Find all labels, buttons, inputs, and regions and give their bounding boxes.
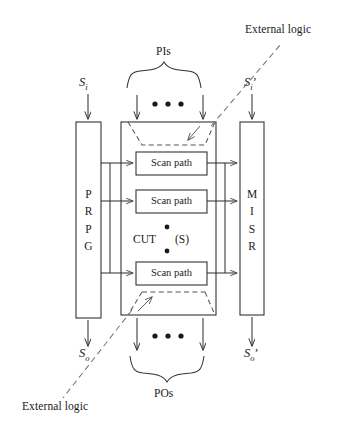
scan-out-prime-label: So’: [244, 347, 259, 362]
misr-block-label: M I S R: [240, 186, 264, 256]
ellipsis-top-dot-1: [152, 101, 157, 106]
ellipsis-top-dot-2: [165, 101, 170, 106]
external-logic-arrow-bottom: [138, 297, 152, 311]
external-logic-label-top: External logic: [245, 24, 311, 36]
scan-in-prime-mark: ’: [253, 75, 257, 89]
scan-in-sub: i: [85, 82, 87, 92]
cut-vertical-dot-top: [165, 225, 170, 230]
ellipsis-bottom-dot-3: [178, 333, 183, 338]
ellipsis-dots: [152, 101, 183, 338]
cut-suffix-label: (S): [175, 234, 189, 246]
diagram-vector-layer: [0, 0, 337, 437]
ellipsis-top-dot-3: [178, 101, 183, 106]
prpg-letter-3: G: [76, 238, 101, 255]
pos-label: POs: [154, 388, 173, 400]
external-logic-label-bottom: External logic: [22, 401, 88, 413]
prpg-block-label: P R P G: [76, 186, 101, 256]
cut-vertical-dot-bottom: [165, 249, 170, 254]
scan-path-label-3: Scan path: [136, 268, 207, 279]
prpg-letter-0: P: [76, 186, 101, 203]
braces: [127, 62, 204, 382]
external-logic-leader-bottom: [63, 310, 132, 398]
misr-letter-0: M: [240, 186, 264, 203]
scan-out-prime-mark: ’: [255, 346, 259, 360]
ellipsis-bottom-dot-2: [165, 333, 170, 338]
scan-path-label-2: Scan path: [136, 196, 207, 207]
misr-letter-1: I: [240, 203, 264, 220]
cut-vertical-dots: [165, 225, 170, 254]
external-logic-trapezoid-bottom: [128, 292, 215, 315]
po-arrows: [137, 318, 203, 350]
cut-box-rect: [121, 122, 216, 315]
scan-path-label-1: Scan path: [136, 158, 207, 169]
prpg-letter-1: R: [76, 203, 101, 220]
pis-brace: [127, 62, 201, 88]
scan-out-label: So: [79, 347, 90, 362]
pi-arrows: [137, 95, 203, 119]
ellipsis-bottom-dot-1: [152, 333, 157, 338]
cut-text: CUT: [133, 233, 156, 245]
scan-path-rects: [136, 152, 207, 285]
misr-letter-2: S: [240, 221, 264, 238]
scan-in-label: Si: [79, 76, 88, 91]
prpg-letter-2: P: [76, 221, 101, 238]
pos-brace: [130, 356, 204, 382]
cut-block-label: CUT: [133, 234, 156, 246]
misr-letter-3: R: [240, 238, 264, 255]
external-logic-regions: [128, 122, 215, 315]
diagram-canvas: External logic External logic PIs POs Si…: [0, 0, 337, 437]
scan-out-sub: o: [85, 353, 89, 363]
pis-label: PIs: [156, 46, 171, 58]
external-logic-arrow-top: [188, 126, 200, 140]
block-outlines: [76, 122, 264, 318]
external-logic-trapezoid-top: [128, 122, 215, 145]
wiring: [88, 94, 252, 346]
scan-in-prime-label: Si’: [244, 76, 257, 91]
